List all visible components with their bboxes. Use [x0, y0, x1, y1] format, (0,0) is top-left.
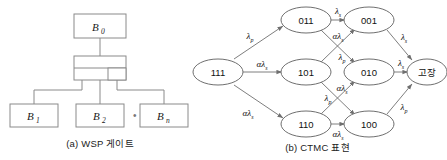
edge-label-011-010: αλs — [333, 31, 345, 43]
edge-label-101-100: λp — [324, 93, 332, 105]
panel-ctmc: λp αλs αλs λs αλs λp λp αλs αλs λs λs λp… — [188, 0, 447, 160]
node-011[interactable]: 011 — [281, 7, 331, 33]
panel-wsp-gate: B 0 B 1 — [0, 0, 200, 160]
caption-panel-b: (b) CTMC 표현 — [188, 140, 447, 154]
top-block-box — [74, 14, 126, 38]
node-001-label: 001 — [361, 15, 377, 26]
ctmc-nodes: 111 011 101 110 001 — [193, 7, 447, 137]
child-block-b2: B 2 — [76, 104, 124, 127]
child-box-1 — [10, 104, 58, 127]
top-block-sub: 0 — [101, 27, 105, 36]
edge-label-111-101: αλs — [257, 59, 269, 71]
edge-100-fail — [387, 84, 412, 114]
child-block-b1: B 1 — [10, 104, 58, 127]
edge-label-100-fail: λp — [400, 102, 408, 114]
node-110[interactable]: 110 — [281, 111, 331, 137]
edge-label-011-001: λs — [334, 6, 342, 18]
node-010-label: 010 — [361, 67, 377, 78]
node-failure[interactable]: 고장 — [407, 59, 447, 85]
edge-label-101-001: λp — [338, 52, 346, 64]
child-block-bn: B n — [140, 104, 188, 127]
node-111-label: 111 — [211, 67, 225, 78]
node-100[interactable]: 100 — [344, 111, 394, 137]
edge-label-010-fail: λs — [397, 58, 405, 70]
child-box-n — [140, 104, 188, 127]
child-label-1: B — [27, 110, 34, 122]
gate-spare-box — [108, 68, 126, 80]
child-sub-1: 1 — [36, 116, 40, 125]
wsp-gate-symbol — [74, 56, 126, 80]
node-111[interactable]: 111 — [193, 59, 243, 85]
top-block-b0: B 0 — [74, 14, 126, 38]
node-001[interactable]: 001 — [344, 7, 394, 33]
edge-label-110-100: αλs — [333, 129, 345, 140]
node-100-label: 100 — [361, 119, 377, 130]
node-010[interactable]: 010 — [344, 59, 394, 85]
edge-label-110-010: αλs — [337, 83, 349, 95]
ctmc-drawing: λp αλs αλs λs αλs λp λp αλs αλs λs λs λp… — [188, 0, 447, 140]
child-label-2: B — [93, 110, 100, 122]
child-sub-n: n — [166, 116, 170, 125]
child-sub-2: 2 — [102, 116, 106, 125]
node-011-label: 011 — [298, 15, 313, 26]
caption-panel-a: (a) WSP 게이트 — [0, 136, 200, 150]
edge-111-011 — [234, 26, 283, 59]
edge-111-110 — [234, 85, 283, 118]
figure-root: B 0 B 1 — [0, 0, 447, 160]
node-101[interactable]: 101 — [281, 59, 331, 85]
top-block-label: B — [92, 21, 99, 33]
edge-label-111-011: λp — [246, 31, 254, 43]
node-failure-label: 고장 — [418, 67, 436, 78]
node-101-label: 101 — [298, 67, 314, 78]
edge-label-111-110: αλs — [243, 108, 255, 120]
edge-001-fail — [387, 30, 412, 60]
wsp-gate-drawing: B 0 B 1 — [0, 0, 200, 132]
node-110-label: 110 — [298, 119, 313, 130]
child-box-2 — [76, 104, 124, 127]
edge-label-001-fail: λs — [400, 32, 408, 44]
child-label-n: B — [157, 110, 164, 122]
